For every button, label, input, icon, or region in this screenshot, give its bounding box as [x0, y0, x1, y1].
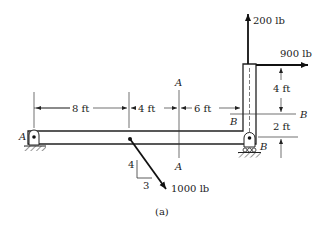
dim-label-8ft: 8 ft: [72, 103, 89, 114]
force-label-900: 900 lb: [280, 48, 312, 59]
force-label-200: 200 lb: [253, 15, 285, 26]
support-label-a: A: [18, 131, 26, 142]
dim-label-2ft-vertical: 2 ft: [273, 121, 290, 132]
slope-run-label: 3: [143, 180, 149, 191]
figure-caption: (a): [155, 206, 169, 217]
section-label-b-right: B: [299, 109, 307, 120]
force-label-1000: 1000 lb: [171, 183, 209, 194]
slope-triangle: [137, 160, 152, 178]
dim-label-4ft-vertical: 4 ft: [273, 83, 290, 94]
frame-diagram: A B 200 lb 900 lb 4 3 1000 lb 8: [0, 0, 327, 233]
section-label-a-bottom: A: [174, 161, 182, 172]
support-label-b: B: [259, 141, 267, 152]
section-label-a-top: A: [174, 77, 182, 88]
slope-rise-label: 4: [128, 159, 134, 170]
dim-label-6ft: 6 ft: [194, 103, 211, 114]
dim-label-4ft: 4 ft: [138, 103, 155, 114]
section-label-b-left: B: [229, 116, 237, 127]
